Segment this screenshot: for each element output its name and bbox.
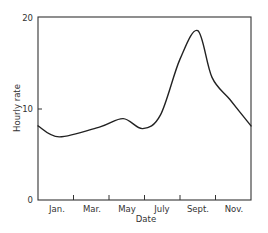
- x-axis: Jan. Mar. May July Sept. Nov. Date: [48, 195, 243, 224]
- line-chart: 20 10 0 Hourly rate Jan. Mar. May July S…: [0, 0, 268, 233]
- x-tick-label-nov: Nov.: [225, 204, 244, 214]
- x-axis-title: Date: [136, 214, 156, 224]
- y-tick-label-10: 10: [22, 104, 33, 114]
- y-axis-title: Hourly rate: [12, 84, 22, 132]
- x-tick-label-mar: Mar.: [83, 204, 101, 214]
- x-tick-label-sept: Sept.: [187, 204, 209, 214]
- y-tick-label-20: 20: [22, 13, 33, 23]
- y-tick-label-0: 0: [28, 195, 33, 205]
- x-tick-label-may: May: [118, 204, 136, 214]
- x-tick-label-july: July: [153, 204, 169, 214]
- plot-frame: [38, 17, 251, 200]
- x-tick-label-jan: Jan.: [48, 204, 65, 214]
- hourly-rate-line: [38, 30, 251, 137]
